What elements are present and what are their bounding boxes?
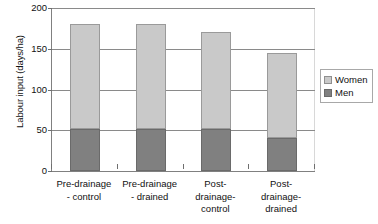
x-category-label-pre-drainage-drained: Pre-drainage- drained — [114, 178, 186, 203]
legend-swatch-women-icon — [324, 76, 332, 84]
x-tick-mark-origin — [51, 164, 52, 169]
x-tick-mark-1 — [183, 164, 184, 169]
y-tick-label-150: 150 — [7, 44, 47, 54]
y-tick-mark-0 — [48, 171, 52, 172]
x-category-label-line: Pre-drainage — [114, 178, 186, 191]
x-tick-mark-0 — [117, 164, 118, 169]
bar-segment-men — [267, 138, 297, 171]
x-category-label-line: - control — [48, 191, 120, 204]
bar-segment-men — [70, 129, 100, 171]
legend-label-women: Women — [335, 75, 368, 85]
legend-item-women: Women — [324, 73, 370, 86]
x-category-label-line: control — [179, 203, 251, 216]
bar-stack — [267, 8, 297, 171]
bar-segment-women — [136, 24, 166, 129]
x-category-label-line: drainage- — [245, 191, 317, 204]
bar-segment-women — [201, 32, 231, 129]
x-category-label-pre-drainage-control: Pre-drainage- control — [48, 178, 120, 203]
x-category-label-post-drainage-control: Post-drainage-control — [179, 178, 251, 216]
x-category-label-line: - drained — [114, 191, 186, 204]
x-category-label-post-drainage-drained: Post-drainage-drained — [245, 178, 317, 216]
stacked-bar-chart: Labour input (days/ha) 0 50 100 150 200 … — [0, 0, 378, 224]
plot-area — [51, 8, 315, 172]
x-category-label-line: Post- — [179, 178, 251, 191]
legend-swatch-men-icon — [324, 89, 332, 97]
bar-segment-women — [70, 24, 100, 129]
x-category-label-line: Pre-drainage — [48, 178, 120, 191]
x-category-label-line: drained — [245, 203, 317, 216]
legend-label-men: Men — [335, 88, 353, 98]
legend-item-men: Men — [324, 86, 370, 99]
bar-segment-men — [136, 129, 166, 171]
y-tick-label-200: 200 — [7, 3, 47, 13]
x-category-label-line: Post- — [245, 178, 317, 191]
y-tick-label-0: 0 — [7, 166, 47, 176]
legend: Women Men — [320, 69, 373, 103]
y-tick-mark-150 — [48, 49, 52, 50]
x-tick-mark-2 — [248, 164, 249, 169]
bar-stack — [201, 8, 231, 171]
y-tick-mark-50 — [48, 130, 52, 131]
bar-segment-women — [267, 53, 297, 138]
y-tick-label-100: 100 — [7, 85, 47, 95]
x-category-label-line: drainage- — [179, 191, 251, 204]
y-tick-mark-100 — [48, 90, 52, 91]
bar-segment-men — [201, 129, 231, 171]
bar-stack — [70, 8, 100, 171]
y-tick-label-50: 50 — [7, 125, 47, 135]
y-tick-mark-200 — [48, 8, 52, 9]
x-tick-mark-3 — [314, 164, 315, 169]
bar-stack — [136, 8, 166, 171]
